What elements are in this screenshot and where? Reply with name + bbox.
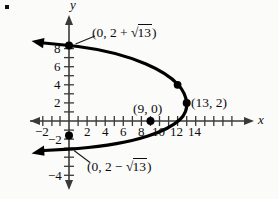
- point-vertex: [183, 99, 191, 107]
- y-axis-name: y: [70, 0, 76, 11]
- y-tick-label-2: 2: [54, 96, 61, 109]
- y-tick-label-6: 6: [54, 60, 61, 73]
- label-vertex: (13, 2): [191, 96, 227, 110]
- label-lower-open: (0, 2 −: [87, 159, 126, 174]
- label-upper-close: ): [152, 25, 157, 40]
- label-upper-open: (0, 2 +: [92, 25, 131, 40]
- y-tick-label-4: 4: [54, 78, 61, 91]
- x-tick-label-4: 4: [102, 125, 109, 138]
- y-tick-label-neg2: −2: [48, 133, 62, 146]
- point-upper-branch: [174, 81, 182, 89]
- x-tick-label-6: 6: [120, 125, 127, 138]
- y-tick-label-8: 8: [54, 42, 61, 55]
- curve-upper-arrow-icon: [32, 38, 45, 48]
- parabola-lower-branch: [44, 103, 187, 151]
- label-x-intercept: (9, 0): [133, 102, 162, 116]
- x-axis-name: x: [258, 113, 264, 126]
- label-y-intercept-lower: (0, 2 − √13): [87, 160, 152, 174]
- leader-lines: [74, 36, 95, 163]
- point-y-intercept-upper: [65, 42, 73, 50]
- label-y-intercept-upper: (0, 2 + √13): [92, 26, 157, 40]
- label-lower-close: ): [147, 159, 152, 174]
- x-axis-right-arrow-icon: [244, 117, 254, 125]
- x-tick-label-10: 10: [152, 125, 165, 138]
- sqrt-icon: √13: [131, 26, 152, 40]
- x-tick-label-12: 12: [170, 125, 183, 138]
- sqrt-icon: √13: [126, 160, 147, 174]
- point-y-intercept-lower: [65, 132, 73, 140]
- x-tick-label-8: 8: [138, 125, 145, 138]
- x-tick-label-14: 14: [188, 125, 201, 138]
- label-lower-radicand: 13: [133, 158, 148, 174]
- y-tick-label-neg4: −4: [48, 169, 62, 182]
- graph-figure: 8 6 4 2 −2 −4 −2 2 4 6 8 10 12 14 x y (0…: [0, 0, 278, 199]
- x-tick-label-neg2: −2: [35, 125, 49, 138]
- y-axis-up-arrow-icon: [65, 15, 73, 25]
- curve-lower-arrow-icon: [32, 146, 45, 156]
- y-axis-down-arrow-icon: [65, 180, 73, 190]
- label-upper-radicand: 13: [138, 24, 153, 40]
- x-tick-label-2: 2: [84, 125, 91, 138]
